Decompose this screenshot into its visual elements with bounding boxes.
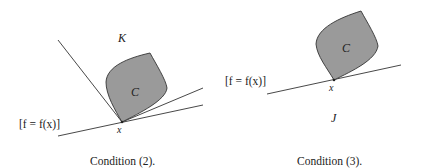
point-x-marker	[121, 121, 124, 124]
diagram-canvas: K C x [f = f(x)] Condition (2). C x J [f…	[0, 0, 422, 168]
cone-k-label: K	[117, 31, 127, 45]
level-set-label: [f = f(x)]	[19, 118, 60, 131]
set-c-label: C	[342, 41, 351, 55]
point-x-label: x	[328, 82, 334, 93]
caption-condition-3: Condition (3).	[297, 155, 362, 168]
caption-condition-2: Condition (2).	[90, 155, 155, 168]
point-x-marker	[333, 79, 336, 82]
panel-condition-3: C x J [f = f(x)] Condition (3).	[225, 11, 401, 168]
set-c-label: C	[131, 85, 140, 99]
halfspace-j-label: J	[331, 111, 337, 125]
level-set-label: [f = f(x)]	[225, 75, 266, 88]
point-x-label: x	[116, 124, 122, 135]
panel-condition-2: K C x [f = f(x)] Condition (2).	[19, 31, 203, 168]
